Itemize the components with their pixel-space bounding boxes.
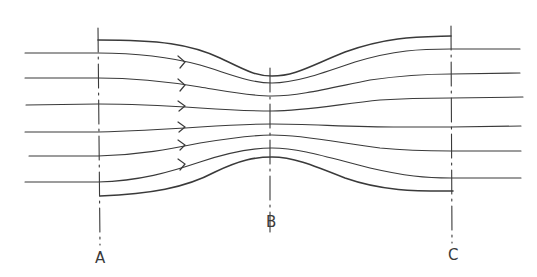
streamline-3	[26, 97, 523, 111]
lower-wall	[100, 157, 453, 196]
section-line-a	[98, 28, 100, 245]
arrow-icon	[178, 122, 185, 132]
section-label-a: A	[95, 251, 105, 266]
venturi-diagram	[0, 0, 537, 277]
arrow-icon	[178, 56, 185, 68]
arrow-icon	[178, 101, 185, 111]
section-label-c: C	[448, 248, 458, 263]
section-line-c	[451, 26, 452, 243]
section-label-b: B	[266, 215, 276, 230]
streamline-5	[29, 135, 521, 156]
arrow-icon	[178, 140, 185, 150]
flow-arrows	[178, 56, 185, 170]
